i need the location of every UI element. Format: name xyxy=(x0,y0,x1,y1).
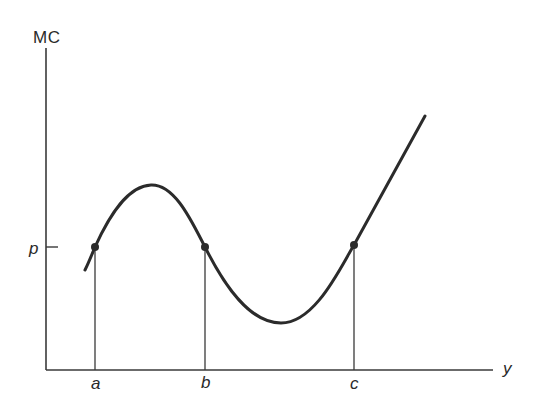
mc-diagram xyxy=(0,0,541,410)
mc-curve xyxy=(85,116,425,323)
point-a-dot xyxy=(91,243,99,251)
point-b-dot xyxy=(201,243,209,251)
x-label-b: b xyxy=(201,374,210,391)
y-axis-label: MC xyxy=(33,29,60,46)
x-axis-label: y xyxy=(503,360,512,377)
x-label-c: c xyxy=(350,375,359,392)
point-c-dot xyxy=(350,241,358,249)
price-label-p: p xyxy=(29,240,38,257)
x-label-a: a xyxy=(91,375,100,392)
